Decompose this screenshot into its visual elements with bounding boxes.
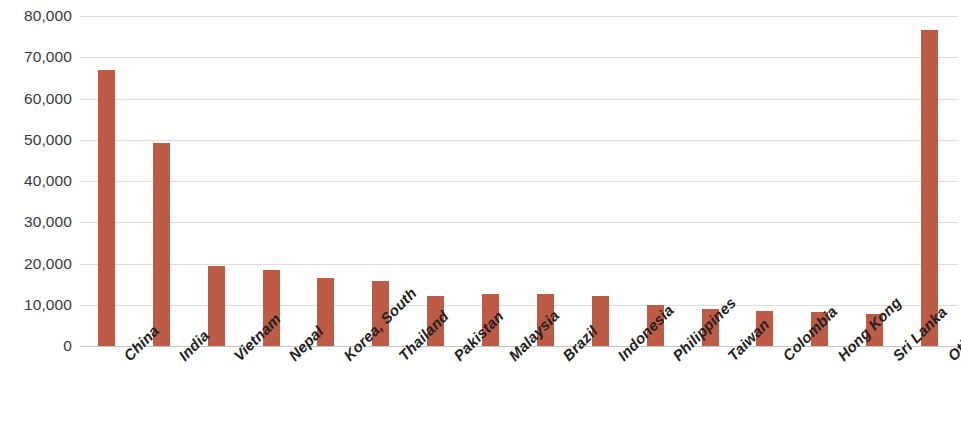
x-axis-tick-label: Brazil (559, 352, 571, 364)
x-axis-tick-label: Pakistan (450, 352, 462, 364)
y-axis-tick-label: 10,000 (24, 296, 72, 314)
bar (208, 266, 225, 346)
x-axis: ChinaIndiaVietnamNepalKorea, SouthThaila… (80, 346, 958, 445)
x-axis-tick-label: China (120, 352, 132, 364)
bar (98, 70, 115, 346)
x-axis-tick-label: Malaysia (505, 352, 517, 364)
y-axis-tick-label: 70,000 (24, 48, 72, 66)
y-axis-tick-label: 20,000 (24, 255, 72, 273)
x-axis-tick-label: Thailand (395, 352, 407, 364)
x-axis-tick-label: Sri Lanka (889, 352, 901, 364)
y-axis-tick-label: 40,000 (24, 172, 72, 190)
y-axis-tick-label: 60,000 (24, 90, 72, 108)
bar (153, 143, 170, 346)
plot-area (80, 0, 958, 346)
y-axis-tick-label: 0 (63, 337, 72, 355)
bars-series (80, 0, 958, 346)
y-axis: 80,00070,00060,00050,00040,00030,00020,0… (0, 0, 76, 360)
x-axis-tick-label: Taiwan (724, 352, 736, 364)
x-axis-tick-label: Philippines (669, 352, 681, 364)
x-axis-tick-label: Nepal (285, 352, 297, 364)
x-axis-tick-label: Indonesia (614, 352, 626, 364)
y-axis-tick-label: 80,000 (24, 7, 72, 25)
x-axis-tick-label: Vietnam (230, 352, 242, 364)
y-axis-tick-label: 30,000 (24, 213, 72, 231)
bar-chart: 80,00070,00060,00050,00040,00030,00020,0… (0, 0, 961, 445)
x-axis-tick-label: Hong Kong (834, 352, 846, 364)
x-axis-tick-label: India (175, 352, 187, 364)
x-axis-tick-label: Korea, South (340, 352, 352, 364)
x-axis-tick-label: Colombia (779, 352, 791, 364)
x-axis-tick-label: Other Countries (944, 352, 956, 364)
bar (921, 30, 938, 346)
y-axis-tick-label: 50,000 (24, 131, 72, 149)
